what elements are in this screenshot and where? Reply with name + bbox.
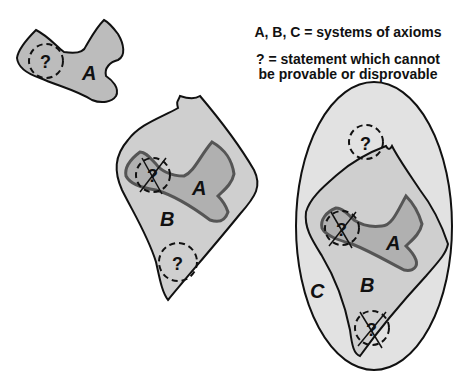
system-a-shape: [17, 20, 123, 102]
label-c: C: [310, 280, 325, 302]
axiom-systems-diagram: ? A ? A B ? ? ? A B C ?: [0, 0, 466, 378]
label-b: B: [360, 274, 374, 296]
figure-system-a: ? A: [17, 20, 123, 102]
question-mark: ?: [40, 52, 51, 72]
label-a: A: [191, 177, 206, 199]
label-a: A: [81, 62, 96, 84]
figure-system-b: ? A B ?: [117, 96, 258, 300]
label-b: B: [160, 208, 174, 230]
question-mark: ?: [360, 134, 371, 154]
label-a: A: [385, 232, 400, 254]
question-mark: ?: [172, 254, 183, 274]
figure-system-c: ? ? A B C ?: [296, 82, 452, 370]
